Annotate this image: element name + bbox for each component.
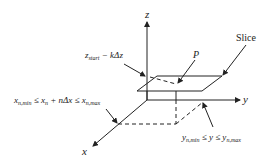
slice-plane [137, 76, 222, 91]
x-axis-label: x [81, 145, 87, 157]
slice-label: Slice [236, 32, 257, 43]
x-constraint-pointer [106, 109, 117, 123]
z-label-pointer [124, 64, 145, 76]
point-p-label: P [192, 49, 199, 60]
z-axis-label: z [144, 8, 150, 20]
y-range-label: yn,min ≤ y ≤ yn,max [181, 132, 241, 143]
slice-diagram: z y x Slice P zstart − kΔz xn,min ≤ xn +… [0, 0, 273, 163]
y-axis-label: y [242, 93, 248, 105]
x-range-label: xn,min ≤ xn + nΔx ≤ xn,max [13, 95, 101, 106]
x-axis [93, 100, 147, 146]
y-constraint-pointer [203, 103, 213, 127]
slice-label-pointer [223, 45, 246, 75]
p-label-pointer [178, 60, 195, 83]
projection-y-dashed [176, 102, 203, 124]
z-start-label: zstart − kΔz [84, 50, 123, 61]
